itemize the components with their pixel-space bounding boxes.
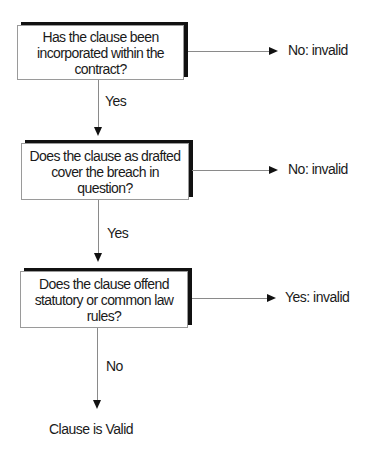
arrow-line-yes (192, 298, 268, 299)
outcome-no-invalid-2: No: invalid (288, 161, 348, 177)
arrowhead-right-icon (269, 166, 278, 174)
question-box-coverage: Does the clause as drafted cover the bre… (21, 143, 189, 200)
arrowhead-right-icon (269, 47, 278, 55)
arrow-line-no (192, 170, 270, 171)
branch-label-yes-1: Yes (105, 93, 126, 109)
arrowhead-down-icon (94, 127, 102, 136)
question-box-incorporation: Has the clause been incorporated within … (17, 25, 184, 80)
final-outcome-valid: Clause is Valid (49, 421, 133, 437)
arrowhead-right-icon (267, 294, 276, 302)
question-box-statutory: Does the clause offend statutory or comm… (20, 271, 188, 328)
question-text: Does the clause offend statutory or comm… (25, 276, 183, 324)
arrowhead-down-icon (94, 253, 102, 262)
arrowhead-down-icon (93, 400, 101, 409)
outcome-yes-invalid: Yes: invalid (285, 289, 349, 305)
question-text: Does the clause as drafted cover the bre… (26, 148, 184, 196)
question-text: Has the clause been incorporated within … (22, 29, 179, 77)
branch-label-no: No (106, 358, 123, 374)
arrow-line-no (97, 328, 98, 402)
arrow-line-no (188, 51, 270, 52)
arrow-line-yes (98, 200, 99, 255)
outcome-no-invalid-1: No: invalid (288, 42, 348, 58)
arrow-line-yes (98, 80, 99, 132)
branch-label-yes-2: Yes (107, 225, 128, 241)
